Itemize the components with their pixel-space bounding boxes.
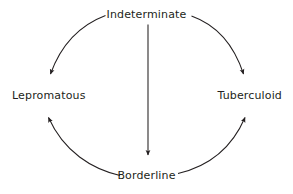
edge-indeterminate-to-tuberculoid bbox=[192, 16, 244, 74]
edge-indeterminate-to-lepromatous bbox=[51, 16, 106, 75]
edge-borderline-to-lepromatous bbox=[49, 118, 121, 176]
edge-borderline-to-tuberculoid bbox=[178, 118, 245, 174]
node-label-borderline: Borderline bbox=[0, 169, 293, 182]
node-label-lepromatous: Lepromatous bbox=[12, 89, 86, 102]
node-label-tuberculoid: Tuberculoid bbox=[217, 89, 282, 102]
node-label-indeterminate: Indeterminate bbox=[0, 8, 293, 21]
leprosy-spectrum-cycle-diagram: Indeterminate Lepromatous Tuberculoid Bo… bbox=[0, 0, 293, 194]
